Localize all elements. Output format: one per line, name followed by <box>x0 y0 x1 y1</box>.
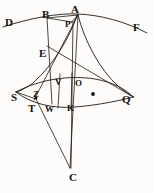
label-point-C: C <box>69 172 77 183</box>
label-point-Z: Z <box>33 90 39 99</box>
label-point-D: D <box>5 17 13 28</box>
segment-E-to-Q <box>47 46 133 97</box>
label-point-F: F <box>133 22 140 33</box>
focus-point-marker <box>91 92 95 96</box>
label-point-O: O <box>75 79 82 88</box>
geometry-figure: D B A P F E V O S Z T W K Q C <box>0 0 154 193</box>
upper-arc-D-B-A-F <box>3 14 147 33</box>
curve-apex-A-to-Q <box>78 15 134 97</box>
label-point-S: S <box>11 92 17 103</box>
label-point-T: T <box>28 103 35 114</box>
label-point-W: W <box>45 105 54 114</box>
marker-group <box>35 92 95 99</box>
label-point-Q: Q <box>122 94 131 105</box>
label-point-E: E <box>39 48 46 59</box>
label-point-K: K <box>67 104 74 113</box>
label-point-P: P <box>65 20 71 29</box>
label-point-B: B <box>42 9 49 20</box>
segment-B-to-W <box>47 18 52 104</box>
label-point-A: A <box>71 4 79 15</box>
label-point-V: V <box>55 78 62 87</box>
